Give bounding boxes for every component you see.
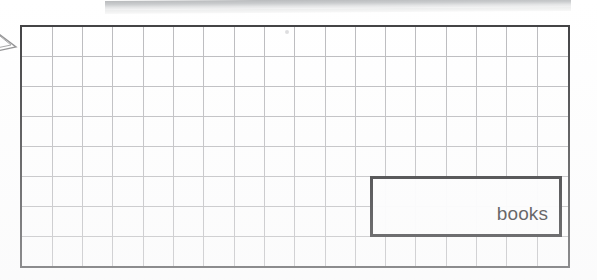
triangle-pointer-icon (0, 28, 20, 54)
answer-rectangle[interactable]: books (370, 176, 562, 237)
page-root: books (0, 0, 597, 280)
scan-speck-artifact (285, 30, 289, 34)
answer-label: books (497, 189, 559, 225)
